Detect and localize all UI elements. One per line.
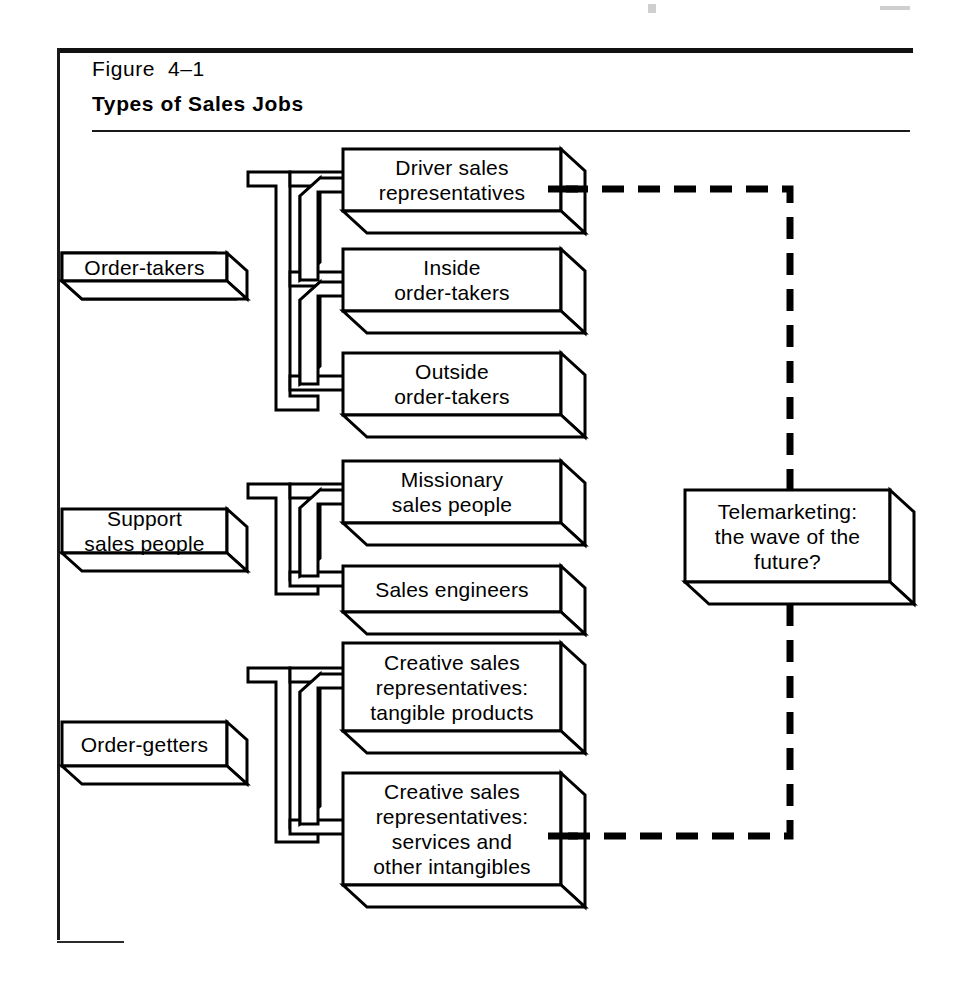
node-order-takers[interactable]: [62, 253, 247, 299]
node-telemarketing[interactable]: [685, 490, 914, 604]
node-creative-sales-tangible[interactable]: [343, 643, 585, 753]
node-inside-order-takers[interactable]: [343, 249, 585, 333]
node-support-sales-people[interactable]: [62, 509, 247, 571]
node-creative-sales-intangible[interactable]: [343, 773, 585, 907]
connector-3d-column-upper: [300, 178, 348, 280]
figure-page: Figure 4–1 Types of Sales Jobs: [0, 0, 958, 993]
dashed-path-telemarketing-to-intangible: [566, 604, 790, 836]
connector-3d-column-getters: [300, 674, 348, 824]
node-sales-engineers[interactable]: [343, 566, 585, 634]
node-missionary-sales-people[interactable]: [343, 461, 585, 545]
node-order-getters[interactable]: [62, 722, 247, 784]
diagram-canvas: Order-takers Support sales people Order-…: [0, 0, 958, 993]
connector-3d-column-lower: [300, 282, 348, 384]
dashed-path-driver-to-telemarketing: [566, 189, 790, 490]
sales-jobs-diagram: [0, 0, 958, 993]
node-outside-order-takers[interactable]: [343, 353, 585, 437]
connector-3d-column-support: [300, 490, 348, 576]
